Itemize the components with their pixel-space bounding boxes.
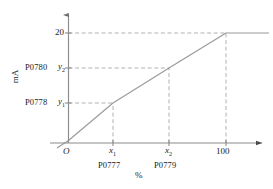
analog-output-scaling-figure: 20 P0780 y2 P0778 y1 mA O x1 P0777 x2 P0…: [0, 0, 273, 189]
x-axis-title-percent: %: [135, 171, 143, 180]
parameter-label-p0780: P0780: [25, 63, 47, 72]
y-axis-tick-label-20: 20: [44, 28, 64, 37]
y1-variable-subscript: 1: [62, 102, 65, 108]
x2-variable-subscript: 2: [169, 151, 172, 157]
x-axis-variable-label-x1: x1: [109, 146, 116, 157]
transfer-characteristic-curve: [57, 33, 269, 148]
parameter-label-p0779: P0779: [154, 161, 176, 170]
parameter-label-p0778: P0778: [25, 98, 47, 107]
tick-marks: [65, 33, 226, 146]
y-axis-variable-label-y2: y2: [58, 62, 65, 73]
projection-lines: [69, 33, 227, 143]
plot-canvas: [0, 0, 273, 189]
y-axis-title-ma: mA: [11, 70, 20, 84]
x1-variable-subscript: 1: [113, 151, 116, 157]
x-axis-variable-label-x2: x2: [165, 146, 172, 157]
origin-label: O: [63, 147, 70, 156]
y-axis-variable-label-y1: y1: [58, 97, 65, 108]
parameter-label-p0777: P0777: [98, 161, 120, 170]
y2-variable-subscript: 2: [62, 67, 65, 73]
x-axis-tick-label-100: 100: [216, 147, 230, 156]
